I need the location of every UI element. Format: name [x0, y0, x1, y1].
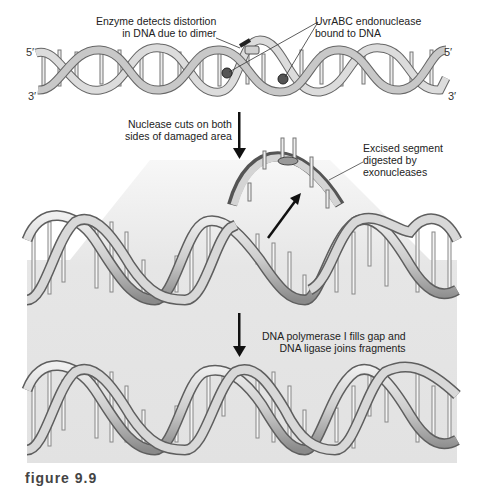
annotation-line: DNA ligase joins fragments [262, 342, 406, 354]
annotation-line: UvrABC endonuclease [315, 15, 421, 27]
annotation-line: in DNA due to dimer [96, 27, 216, 39]
annotation-line: exonucleases [363, 166, 443, 178]
annotation-polymerase: DNA polymerase I fills gap and DNA ligas… [262, 330, 406, 354]
annotation-line: digested by [363, 154, 443, 166]
annotation-line: DNA polymerase I fills gap and [262, 330, 406, 342]
end-label-5prime-left: 5′ [26, 46, 34, 58]
annotation-line: sides of damaged area [125, 130, 232, 142]
uvrabc-sphere-left [222, 68, 232, 78]
annotation-line: Excised segment [363, 142, 443, 154]
annotation-line: Nuclease cuts on both [125, 118, 232, 130]
uvrabc-sphere-right [278, 74, 288, 84]
background-panel [27, 160, 457, 463]
arrow-down-1 [233, 112, 246, 159]
annotation-uvrabc: UvrABC endonuclease bound to DNA [315, 15, 421, 39]
end-label-3prime-left: 3′ [28, 90, 36, 102]
dimer-icon [245, 46, 259, 54]
figure-caption: figure 9.9 [25, 470, 97, 486]
end-label-3prime-right: 3′ [448, 90, 456, 102]
annotation-excised-segment: Excised segment digested by exonucleases [363, 142, 443, 178]
end-label-5prime-right: 5′ [444, 46, 452, 58]
annotation-nuclease-cuts: Nuclease cuts on both sides of damaged a… [125, 118, 232, 142]
annotation-enzyme-detects: Enzyme detects distortion in DNA due to … [96, 15, 216, 39]
annotation-line: Enzyme detects distortion [96, 15, 216, 27]
annotation-line: bound to DNA [315, 27, 421, 39]
